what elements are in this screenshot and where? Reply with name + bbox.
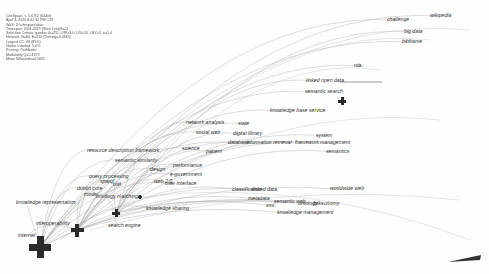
keyword-label[interactable]: xml (266, 203, 274, 208)
keyword-label[interactable]: folksonomy (313, 201, 339, 206)
keyword-label[interactable]: knowledge base service (270, 108, 325, 113)
node-cross-icon (75, 224, 79, 237)
keyword-label[interactable]: worldwide web (330, 186, 364, 191)
keyword-label[interactable]: bibframe (402, 39, 422, 44)
keyword-label[interactable]: network analysis (186, 120, 224, 125)
node-cross-icon (341, 97, 344, 105)
keyword-label[interactable]: linked data (252, 187, 277, 192)
citespace-network-diagram: CiteSpace, v. 5.6.R2 (64-bit)April 3, 20… (0, 0, 489, 274)
keyword-label[interactable]: challenge (387, 17, 409, 22)
node-cross-icon (139, 195, 141, 199)
keyword-label[interactable]: wikipedia (430, 13, 451, 18)
keyword-label[interactable]: knowledge sharing (146, 206, 189, 211)
keyword-label[interactable]: e-government (170, 172, 202, 177)
keyword-label[interactable]: metadata (248, 196, 270, 201)
keyword-label[interactable]: digital library (233, 131, 262, 136)
keyword-label[interactable]: science (182, 146, 200, 151)
keyword-label[interactable]: user interface (165, 181, 196, 186)
node-evaluation[interactable] (138, 195, 142, 199)
keyword-label[interactable]: state (238, 121, 249, 126)
keyword-label[interactable]: interoperability (36, 221, 70, 226)
keyword-label[interactable]: management (320, 140, 350, 145)
keyword-label[interactable]: owl (113, 182, 121, 187)
keyword-label[interactable]: information retrieval (246, 140, 292, 145)
node-cross-icon (37, 236, 44, 258)
node-search[interactable] (112, 209, 120, 217)
keyword-label[interactable]: semantics (326, 149, 349, 154)
node-interoperability[interactable] (71, 224, 84, 237)
keyword-label[interactable]: system (316, 133, 332, 138)
keyword-label[interactable]: knowledge management (277, 210, 334, 215)
node-cross-icon (115, 209, 118, 217)
keyword-label[interactable]: framework (295, 140, 319, 145)
burst-wedge-icon (448, 255, 481, 262)
keyword-label[interactable]: search engine (108, 223, 141, 228)
keyword-label[interactable]: design (150, 167, 165, 172)
keyword-label[interactable]: big data (404, 29, 422, 34)
keyword-label[interactable]: semantic similarity (115, 158, 157, 163)
keyword-label[interactable]: rda (354, 63, 362, 68)
keyword-label[interactable]: pattern (206, 149, 222, 154)
keyword-label[interactable]: social web (196, 130, 220, 135)
keyword-label[interactable]: knowledge representation (16, 200, 75, 205)
keyword-label[interactable]: linked open data (306, 78, 344, 83)
keyword-label[interactable]: performance (173, 163, 202, 168)
edge-line (40, 188, 262, 247)
node-internet[interactable] (29, 236, 51, 258)
keyword-label[interactable]: semantic search (305, 89, 343, 94)
legend-metadata: CiteSpace, v. 5.6.R2 (64-bit)April 3, 20… (6, 14, 112, 61)
keyword-label[interactable]: ontology matching (96, 194, 138, 199)
legend-line: Mean Silhouette=0.5665 (6, 57, 112, 61)
keyword-label[interactable]: resource description framework (87, 148, 159, 153)
node-semantic-search[interactable] (338, 97, 346, 105)
